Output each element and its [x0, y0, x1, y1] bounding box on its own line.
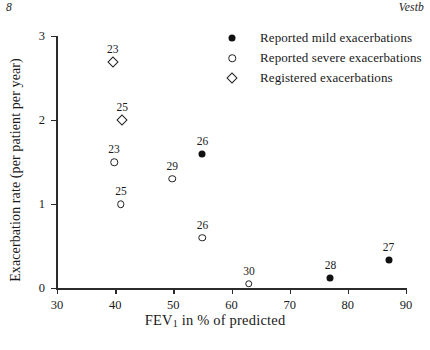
x-axis-tick-label: 80: [342, 298, 355, 313]
data-point-open-circle: [199, 234, 207, 242]
x-axis-tick-label: 60: [225, 298, 238, 313]
x-axis-tick: [406, 288, 407, 294]
y-axis-tick: [51, 288, 57, 289]
x-axis-title-main: FEV: [145, 312, 173, 328]
data-point-label: 30: [243, 265, 255, 277]
data-point-label: 25: [116, 101, 128, 113]
x-axis-tick: [290, 288, 291, 294]
y-axis-line: [56, 36, 58, 289]
y-axis-tick: [51, 204, 57, 205]
page-canvas: 8 Vestb Exacerbation rate (per patient p…: [0, 0, 430, 350]
data-point-label: 26: [197, 219, 209, 231]
x-axis-tick-label: 50: [167, 298, 180, 313]
data-point-label: 23: [108, 143, 120, 155]
x-axis-title: FEV1 in % of predicted: [0, 312, 430, 329]
y-axis-tick: [51, 36, 57, 37]
data-point-label: 26: [197, 135, 209, 147]
x-axis-tick: [232, 288, 233, 294]
data-point-filled-circle: [327, 274, 334, 281]
data-point-open-diamond: [116, 114, 127, 125]
x-axis-tick-label: 70: [283, 298, 296, 313]
x-axis-title-rest: in % of predicted: [178, 312, 285, 328]
y-axis-title-wrapper: Exacerbation rate (per patient per year): [14, 20, 32, 310]
x-axis-tick: [348, 288, 349, 294]
data-point-label: 28: [325, 259, 337, 271]
legend-marker-filled-circle: [229, 35, 236, 42]
data-point-label: 29: [166, 160, 178, 172]
scatter-chart-figure: Exacerbation rate (per patient per year)…: [0, 0, 430, 350]
legend-item: Reported severe exacerbations: [228, 48, 422, 68]
x-axis-tick: [115, 288, 116, 294]
x-axis-tick: [57, 288, 58, 294]
legend-marker-open-diamond: [226, 72, 237, 83]
legend-item: Reported mild exacerbations: [228, 28, 422, 48]
legend-marker-open-circle: [228, 54, 236, 62]
data-point-filled-circle: [199, 150, 206, 157]
data-point-open-diamond: [107, 56, 118, 67]
legend-item: Registered exacerbations: [228, 68, 422, 88]
x-axis-tick-label: 30: [51, 298, 64, 313]
x-axis-tick-label: 40: [109, 298, 122, 313]
y-axis-tick: [51, 120, 57, 121]
data-point-open-circle: [117, 200, 125, 208]
data-point-label: 25: [115, 185, 127, 197]
x-axis-tick-label: 90: [400, 298, 413, 313]
data-point-open-circle: [168, 175, 176, 183]
x-axis-tick: [173, 288, 174, 294]
data-point-open-circle: [245, 280, 253, 288]
y-axis-tick-label: 0: [39, 281, 45, 296]
y-axis-tick-label: 2: [39, 113, 45, 128]
legend-label: Reported severe exacerbations: [260, 48, 422, 68]
data-point-label: 23: [107, 43, 119, 55]
y-axis-title: Exacerbation rate (per patient per year): [8, 20, 24, 320]
y-axis-tick-label: 3: [39, 29, 45, 44]
data-point-filled-circle: [385, 257, 392, 264]
y-axis-tick-label: 1: [39, 197, 45, 212]
chart-legend: Reported mild exacerbationsReported seve…: [228, 28, 422, 88]
data-point-open-circle: [110, 158, 118, 166]
legend-label: Reported mild exacerbations: [260, 28, 412, 48]
legend-label: Registered exacerbations: [260, 68, 393, 88]
data-point-label: 27: [383, 241, 395, 253]
